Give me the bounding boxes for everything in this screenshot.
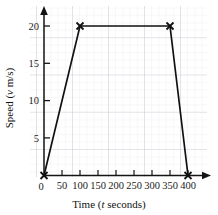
x-tick-label-250: 250 [126,180,142,191]
x-tick-label-400: 400 [180,180,196,191]
x-tick-label-150: 150 [90,180,106,191]
graph-paper-grid [30,6,207,177]
x-axis-title-pre: Time ( [72,198,102,211]
x-tick-label-100: 100 [72,180,88,191]
y-tick-label-10: 10 [29,95,40,106]
y-tick-label-5: 5 [34,133,39,144]
y-tick-label-15: 15 [29,58,40,69]
x-axis-title-post: seconds) [105,198,147,211]
speed-time-graph-figure: . 2 [0,0,218,215]
cropped-text-remnant: . [40,0,210,5]
x-tick-label-300: 300 [144,180,160,191]
x-axis-tick-labels: 50 100 150 200 250 300 350 400 [57,180,196,191]
x-tick-label-350: 350 [162,180,178,191]
origin-label: 0 [38,181,43,192]
x-axis-title: Time (t seconds) [72,198,146,211]
chart-canvas: 20 15 10 5 50 100 150 200 250 300 350 40… [0,0,218,215]
cropped-text-remnant-label: . [40,0,210,4]
x-tick-label-50: 50 [57,180,68,191]
x-tick-label-200: 200 [108,180,124,191]
y-axis-title-post: m/s) [3,67,16,90]
y-tick-label-20: 20 [29,21,40,32]
y-axis-title: Speed (v m/s) [3,67,16,128]
y-axis-title-pre: Speed ( [3,95,16,129]
